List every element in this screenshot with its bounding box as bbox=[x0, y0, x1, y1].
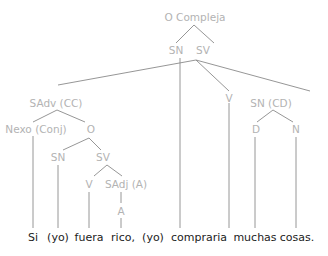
node-o-compleja: O Compleja bbox=[165, 11, 226, 23]
word-muchas: muchas bbox=[233, 231, 276, 244]
node-sn-sub: SN bbox=[51, 151, 66, 163]
word-si: Si bbox=[28, 231, 38, 244]
node-o-sub: O bbox=[87, 123, 95, 135]
node-sn-cd: SN (CD) bbox=[250, 97, 291, 109]
node-sn-subject: SN bbox=[169, 44, 184, 56]
word-fuera: fuera bbox=[75, 231, 104, 244]
node-v-sub: V bbox=[85, 178, 92, 190]
node-d: D bbox=[252, 123, 260, 135]
node-v-main: V bbox=[225, 92, 232, 104]
node-nexo-conj: Nexo (Conj) bbox=[5, 123, 66, 135]
word-yo-2: (yo) bbox=[142, 231, 164, 244]
node-sv-sub: SV bbox=[96, 151, 110, 163]
node-a: A bbox=[117, 205, 124, 217]
word-rico: rico, bbox=[111, 231, 135, 244]
node-sadv-cc: SAdv (CC) bbox=[30, 97, 83, 109]
node-sv-predicate: SV bbox=[196, 44, 210, 56]
word-compraria: compraria bbox=[171, 231, 227, 244]
node-n: N bbox=[292, 123, 300, 135]
word-yo-1: (yo) bbox=[47, 231, 69, 244]
node-sadj-a: SAdj (A) bbox=[105, 178, 147, 190]
word-cosas: cosas. bbox=[280, 231, 314, 244]
